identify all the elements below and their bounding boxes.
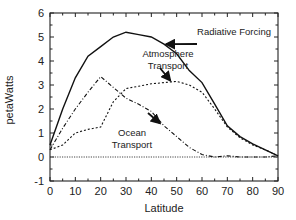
y-tick-label: 1 bbox=[38, 127, 44, 139]
x-tick-label: 50 bbox=[171, 185, 183, 197]
annotation-radiative-forcing: Radiative Forcing bbox=[166, 26, 271, 44]
x-tick-label: 70 bbox=[221, 185, 233, 197]
x-axis-label: Latitude bbox=[144, 202, 183, 214]
y-tick-labels: -10123456 bbox=[34, 7, 44, 187]
y-tick-label: 0 bbox=[38, 151, 44, 163]
svg-text:Atmosphere: Atmosphere bbox=[142, 48, 193, 59]
y-axis-label: petaWatts bbox=[3, 75, 15, 125]
annotations: Radiative ForcingAtmosphereTransportOcea… bbox=[112, 26, 271, 150]
x-tick-label: 90 bbox=[272, 185, 284, 197]
y-tick-label: 4 bbox=[38, 55, 44, 67]
plot-frame bbox=[50, 13, 278, 181]
plot-border bbox=[50, 13, 278, 181]
svg-text:Ocean: Ocean bbox=[118, 127, 146, 138]
chart: 0102030405060708090 -10123456 Radiative … bbox=[0, 0, 296, 220]
svg-text:Transport: Transport bbox=[112, 139, 153, 150]
y-tick-label: 3 bbox=[38, 79, 44, 91]
x-tick-label: 10 bbox=[69, 185, 81, 197]
x-tick-label: 0 bbox=[47, 185, 53, 197]
series-ocean-transport bbox=[50, 77, 278, 157]
y-tick-label: 2 bbox=[38, 103, 44, 115]
axis-ticks bbox=[50, 13, 278, 181]
x-tick-label: 20 bbox=[95, 185, 107, 197]
y-tick-label: 5 bbox=[38, 31, 44, 43]
y-tick-label: -1 bbox=[34, 175, 44, 187]
x-tick-label: 60 bbox=[196, 185, 208, 197]
x-tick-label: 80 bbox=[247, 185, 259, 197]
series-atmosphere-transport bbox=[50, 81, 278, 155]
y-tick-label: 6 bbox=[38, 7, 44, 19]
x-tick-label: 40 bbox=[145, 185, 157, 197]
annotation-ocean-transport: OceanTransport bbox=[112, 113, 160, 150]
svg-text:Transport: Transport bbox=[148, 60, 189, 71]
x-tick-label: 30 bbox=[120, 185, 132, 197]
annotation-atmosphere-transport: AtmosphereTransport bbox=[142, 48, 193, 81]
x-tick-labels: 0102030405060708090 bbox=[47, 185, 284, 197]
svg-text:Radiative Forcing: Radiative Forcing bbox=[197, 26, 271, 37]
